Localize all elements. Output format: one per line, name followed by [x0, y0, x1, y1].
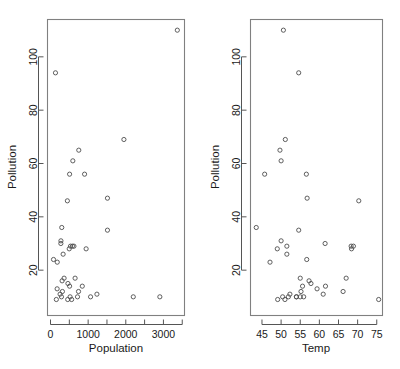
x-tick-label: 45	[256, 328, 268, 340]
data-point	[305, 196, 309, 200]
data-point	[82, 172, 86, 176]
data-point	[131, 295, 135, 299]
scatter-panel-population: 0100020003000 20406080100 Population Pol…	[0, 0, 200, 369]
data-point	[283, 297, 287, 301]
data-point	[60, 225, 64, 229]
data-point	[88, 295, 92, 299]
y-tick-label: 80	[27, 104, 39, 116]
data-point	[122, 137, 126, 141]
data-point	[76, 289, 80, 293]
x-axis-temp	[262, 320, 377, 325]
data-points-population	[51, 28, 179, 302]
x-axis-title-temp: Temp	[302, 342, 330, 354]
y-tick-label: 20	[230, 264, 242, 276]
y-tick-label: 100	[230, 48, 242, 66]
data-point	[278, 148, 282, 152]
y-tick-label: 100	[27, 48, 39, 66]
plot-frame	[251, 20, 383, 316]
data-point	[299, 289, 303, 293]
y-tick-label: 60	[230, 158, 242, 170]
data-point	[285, 244, 289, 248]
x-tick-label: 65	[333, 328, 345, 340]
data-point	[61, 252, 65, 256]
x-tick-label: 75	[371, 328, 383, 340]
data-point	[304, 172, 308, 176]
x-tick-label: 55	[294, 328, 306, 340]
data-point	[54, 297, 58, 301]
data-point	[105, 228, 109, 232]
data-point	[297, 228, 301, 232]
x-tick-label: 0	[48, 328, 54, 340]
data-point	[279, 159, 283, 163]
x-tick-labels-temp: 45505560657075	[256, 328, 383, 340]
y-tick-label: 40	[230, 211, 242, 223]
data-point	[95, 292, 99, 296]
plot-svg-temp: 45505560657075 20406080100 Temp Pollutio…	[200, 0, 400, 369]
data-point	[300, 284, 304, 288]
y-tick-label: 20	[27, 264, 39, 276]
figure-container: 0100020003000 20406080100 Population Pol…	[0, 0, 400, 369]
data-point	[55, 260, 59, 264]
data-point	[105, 196, 109, 200]
data-point	[315, 287, 319, 291]
x-tick-label: 2000	[114, 328, 138, 340]
data-point	[55, 287, 59, 291]
x-tick-label: 50	[275, 328, 287, 340]
data-point	[281, 295, 285, 299]
y-tick-label: 80	[230, 104, 242, 116]
data-point	[275, 247, 279, 251]
data-point	[268, 260, 272, 264]
plot-svg-population: 0100020003000 20406080100 Population Pol…	[0, 0, 200, 369]
data-point	[51, 257, 55, 261]
data-point	[321, 292, 325, 296]
x-axis-population	[51, 320, 183, 325]
y-tick-labels-pollution-left: 20406080100	[27, 48, 39, 276]
plot-frame	[48, 20, 185, 316]
data-point	[283, 137, 287, 141]
data-point	[298, 276, 302, 280]
data-point	[75, 295, 79, 299]
data-point	[297, 71, 301, 75]
data-point	[323, 241, 327, 245]
data-point	[158, 295, 162, 299]
y-tick-label: 40	[27, 211, 39, 223]
data-point	[73, 276, 77, 280]
data-point	[254, 225, 258, 229]
y-axis-title-pollution-left: Pollution	[6, 145, 18, 189]
data-point	[344, 276, 348, 280]
y-tick-labels-pollution-right: 20406080100	[230, 48, 242, 276]
y-axis-title-pollution-right: Pollution	[209, 145, 221, 189]
data-point	[67, 172, 71, 176]
data-point	[276, 297, 280, 301]
data-point	[357, 199, 361, 203]
data-point	[305, 257, 309, 261]
data-point	[377, 297, 381, 301]
x-tick-label: 3000	[152, 328, 176, 340]
scatter-panel-temp: 45505560657075 20406080100 Temp Pollutio…	[200, 0, 400, 369]
data-point	[175, 28, 179, 32]
data-point	[65, 199, 69, 203]
data-point	[53, 71, 57, 75]
data-point	[60, 289, 64, 293]
data-point	[71, 159, 75, 163]
x-tick-label: 70	[352, 328, 364, 340]
x-axis-title-population: Population	[89, 342, 143, 354]
data-point	[341, 289, 345, 293]
x-tick-label: 60	[314, 328, 326, 340]
data-point	[285, 252, 289, 256]
data-point	[77, 148, 81, 152]
data-point	[263, 172, 267, 176]
x-tick-label: 1000	[76, 328, 100, 340]
data-points-temp	[254, 28, 381, 302]
y-axis-pollution-left	[39, 57, 44, 270]
data-point	[279, 239, 283, 243]
data-point	[80, 284, 84, 288]
data-point	[323, 284, 327, 288]
data-point	[59, 241, 63, 245]
data-point	[84, 247, 88, 251]
x-tick-labels-population: 0100020003000	[48, 328, 176, 340]
y-axis-pollution-right	[242, 57, 247, 270]
data-point	[281, 28, 285, 32]
y-tick-label: 60	[27, 158, 39, 170]
